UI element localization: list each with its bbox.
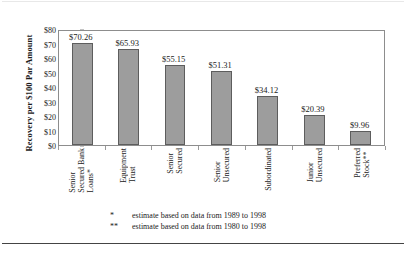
x-category-slot: SeniorSecured BankLoans*: [58, 148, 105, 210]
bar-value-label: $55.15: [162, 54, 185, 64]
x-category-label-line: Senior: [166, 148, 175, 174]
bar-slot: $51.31: [198, 31, 244, 145]
x-category-label-line: Secured: [175, 148, 184, 174]
x-category-label-line: Unsecured: [222, 148, 231, 182]
x-category-label-line: Stock**: [362, 148, 371, 178]
bottom-divider: [2, 243, 404, 244]
x-category-slot: EquipmentTrust: [105, 148, 152, 210]
footnotes: *estimate based on data from 1989 to 199…: [110, 211, 370, 232]
x-category-slot: SeniorUnsecured: [198, 148, 245, 210]
footnote: **estimate based on data from 1980 to 19…: [110, 222, 370, 233]
footnote-marker: *: [110, 211, 132, 222]
bar-slot: $34.12: [245, 31, 291, 145]
bar-value-label: $9.96: [350, 120, 369, 130]
bar[interactable]: [165, 65, 186, 145]
y-tick-label: $30: [44, 98, 56, 107]
bar-slot: $20.39: [291, 31, 337, 145]
x-category-label-line: Senior: [213, 148, 222, 182]
y-axis-tick-labels: $0$10$20$30$40$50$60$70$80: [26, 24, 56, 148]
bar[interactable]: [72, 43, 93, 145]
x-category-label: EquipmentTrust: [119, 148, 137, 183]
x-axis-tick-mark: [385, 146, 386, 150]
figure: Recovery per $100 Par Amount $0$10$20$30…: [0, 0, 406, 253]
x-axis-tick-mark: [292, 146, 293, 150]
footnote-text: estimate based on data from 1980 to 1998: [132, 222, 370, 233]
y-tick-label: $20: [44, 113, 56, 122]
x-category-label-line: Senior: [68, 148, 77, 193]
bar[interactable]: [257, 96, 278, 145]
x-category-label-line: Equipment: [119, 148, 128, 183]
x-category-slot: PreferredStock**: [338, 148, 385, 210]
x-axis-tick-mark: [198, 146, 199, 150]
x-category-label: SeniorSecured BankLoans*: [68, 148, 95, 193]
bar[interactable]: [350, 131, 371, 145]
x-category-label-line: Subordinated: [264, 148, 273, 191]
x-axis-tick-mark: [105, 146, 106, 150]
top-divider: [2, 1, 404, 2]
bar[interactable]: [304, 115, 325, 145]
bar[interactable]: [211, 71, 232, 145]
y-tick-label: $60: [44, 55, 56, 64]
x-category-label: Subordinated: [264, 148, 273, 191]
x-axis-tick-mark: [151, 146, 152, 150]
x-axis-tick-mark: [245, 146, 246, 150]
y-tick-label: $80: [44, 26, 56, 35]
y-tick-label: $0: [48, 142, 56, 151]
y-tick-label: $40: [44, 84, 56, 93]
x-category-label: SeniorSecured: [166, 148, 184, 174]
footnote: *estimate based on data from 1989 to 199…: [110, 211, 370, 222]
x-category-label-line: Trust: [128, 148, 137, 183]
x-category-label-line: Secured Bank: [77, 148, 86, 193]
bar-value-label: $20.39: [301, 104, 324, 114]
x-axis-tick-mark: [58, 146, 59, 150]
y-tick-label: $70: [44, 40, 56, 49]
x-axis-category-labels: SeniorSecured BankLoans*EquipmentTrustSe…: [58, 148, 385, 210]
x-category-label: SeniorUnsecured: [213, 148, 231, 182]
x-category-label-line: Junior: [306, 148, 315, 182]
bar-slot: $65.93: [105, 31, 151, 145]
bar-series: $70.26$65.93$55.15$51.31$34.12$20.39$9.9…: [59, 31, 384, 145]
y-tick-label: $50: [44, 69, 56, 78]
bar-value-label: $34.12: [255, 85, 278, 95]
x-category-label: PreferredStock**: [353, 148, 371, 178]
x-category-slot: JuniorUnsecured: [292, 148, 339, 210]
x-category-label-line: Unsecured: [315, 148, 324, 182]
bar-value-label: $70.26: [69, 32, 92, 42]
bar-value-label: $65.93: [116, 38, 139, 48]
x-category-label-line: Preferred: [353, 148, 362, 178]
x-category-slot: Subordinated: [245, 148, 292, 210]
plot-area: $70.26$65.93$55.15$51.31$34.12$20.39$9.9…: [58, 30, 385, 146]
x-category-label: JuniorUnsecured: [306, 148, 324, 182]
footnote-marker: **: [110, 222, 132, 233]
x-axis-tick-mark: [338, 146, 339, 150]
bar-slot: $70.26: [59, 31, 105, 145]
bar-slot: $9.96: [338, 31, 384, 145]
footnote-text: estimate based on data from 1989 to 1998: [132, 211, 370, 222]
x-category-slot: SeniorSecured: [151, 148, 198, 210]
bar-value-label: $51.31: [208, 60, 231, 70]
x-category-label-line: Loans*: [86, 148, 95, 193]
y-tick-label: $10: [44, 127, 56, 136]
bar[interactable]: [118, 49, 139, 145]
bar-slot: $55.15: [152, 31, 198, 145]
